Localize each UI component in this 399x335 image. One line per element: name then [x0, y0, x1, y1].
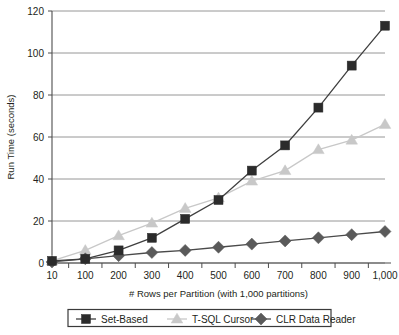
legend-label-2: CLR Data Reader: [276, 314, 356, 325]
data-point-marker: [214, 196, 223, 205]
data-point-marker: [346, 134, 358, 144]
data-point-marker: [381, 21, 390, 30]
x-tick-label: 1,000: [372, 270, 397, 281]
series-line: [52, 26, 385, 261]
x-tick-label: 800: [310, 270, 327, 281]
x-tick-label: 900: [343, 270, 360, 281]
data-point-marker: [181, 214, 190, 223]
y-tick-label: 80: [33, 90, 45, 101]
data-point-marker: [82, 315, 91, 324]
data-point-marker: [247, 166, 256, 175]
data-point-marker: [347, 61, 356, 70]
x-tick-label: 600: [243, 270, 260, 281]
data-point-marker: [114, 246, 123, 255]
x-tick-label: 700: [277, 270, 294, 281]
x-tick-label: 10: [46, 270, 58, 281]
data-point-marker: [346, 229, 358, 241]
data-point-marker: [213, 241, 225, 253]
data-point-marker: [147, 233, 156, 242]
x-tick-label: 400: [177, 270, 194, 281]
y-tick-label: 0: [38, 258, 44, 269]
chart-container: 0204060801001201010020030040050060070080…: [0, 0, 399, 335]
data-point-marker: [314, 103, 323, 112]
data-point-marker: [279, 165, 291, 175]
data-point-marker: [179, 244, 191, 256]
data-point-marker: [279, 235, 291, 247]
y-tick-label: 60: [33, 132, 45, 143]
y-axis-title: Run Time (seconds): [5, 94, 16, 179]
y-gridlines: 020406080100120: [27, 6, 385, 269]
x-axis-title: # Rows per Partition (with 1,000 partiti…: [129, 288, 308, 299]
data-point-marker: [48, 256, 57, 265]
data-point-marker: [379, 226, 391, 238]
run-time-line-chart: 0204060801001201010020030040050060070080…: [0, 0, 399, 335]
legend-label-1: T-SQL Cursor: [192, 314, 254, 325]
data-point-marker: [379, 119, 391, 129]
data-point-marker: [81, 254, 90, 263]
x-tick-label: 300: [144, 270, 161, 281]
x-axis-ticks: 101002003004005006007008009001,000: [46, 263, 398, 281]
data-point-marker: [312, 232, 324, 244]
legend-label-0: Set-Based: [101, 314, 148, 325]
x-tick-label: 200: [110, 270, 127, 281]
data-point-marker: [146, 217, 158, 227]
chart-legend: Set-BasedT-SQL CursorCLR Data Reader: [68, 310, 356, 327]
x-tick-label: 100: [77, 270, 94, 281]
data-point-marker: [246, 238, 258, 250]
series-set-based: [48, 21, 390, 265]
y-tick-label: 40: [33, 174, 45, 185]
data-point-marker: [146, 247, 158, 259]
y-tick-label: 100: [27, 48, 44, 59]
y-tick-label: 20: [33, 216, 45, 227]
x-tick-label: 500: [210, 270, 227, 281]
data-point-marker: [281, 141, 290, 150]
series-clr-data-reader: [46, 226, 391, 268]
y-tick-label: 120: [27, 6, 44, 17]
